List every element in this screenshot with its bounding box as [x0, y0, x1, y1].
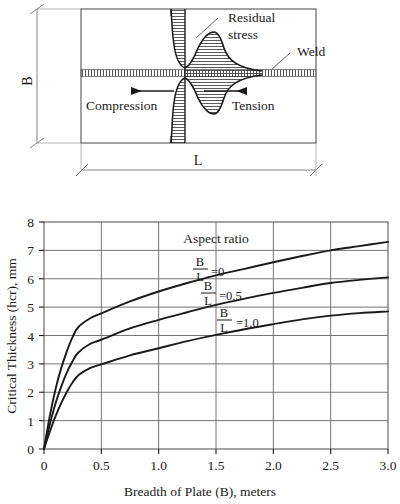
y-tick-label: 1 — [27, 414, 34, 429]
series-2-denominator: L — [220, 321, 228, 335]
series-0-numerator: B — [196, 255, 204, 269]
series-1-value: =0.5 — [219, 289, 242, 303]
label-dim-b: B — [20, 76, 35, 85]
series-1-denominator: L — [204, 294, 212, 308]
y-tick-label: 8 — [27, 215, 34, 230]
y-tick-label: 3 — [27, 357, 34, 372]
x-tick-label: 1.0 — [150, 458, 167, 473]
x-tick-label: 0 — [41, 458, 48, 473]
x-axis-title: Breadth of Plate (B), meters — [124, 484, 276, 499]
y-tick-label: 0 — [27, 442, 34, 457]
label-compression: Compression — [86, 98, 158, 113]
x-tick-label: 2.0 — [265, 458, 282, 473]
y-tick-label: 5 — [27, 300, 34, 315]
legend-title: Aspect ratio — [183, 231, 249, 246]
label-residual-stress: Residual — [228, 10, 275, 25]
label-residual-stress-line2: stress — [228, 27, 258, 42]
y-tick-label: 6 — [27, 272, 34, 287]
label-weld: Weld — [297, 44, 325, 59]
x-tick-label: 2.5 — [322, 458, 339, 473]
series-0-value: =0 — [211, 265, 224, 279]
series-1-numerator: B — [204, 279, 212, 293]
y-tick-label: 4 — [27, 329, 34, 344]
x-tick-label: 1.5 — [208, 458, 225, 473]
y-tick-label: 7 — [27, 243, 34, 258]
figure-container: Residual stress Weld Compression Tension… — [0, 0, 400, 504]
label-tension: Tension — [232, 98, 275, 113]
y-tick-label: 2 — [27, 385, 34, 400]
y-axis-title: Critical Thickness (hcr), mm — [4, 258, 19, 414]
x-tick-label: 0.5 — [93, 458, 110, 473]
label-dim-l: L — [194, 153, 203, 168]
series-0-denominator: L — [196, 270, 204, 284]
series-2-value: =1.0 — [236, 316, 259, 330]
series-2-numerator: B — [220, 306, 228, 320]
x-tick-label: 3.0 — [380, 458, 397, 473]
figure-svg: Residual stress Weld Compression Tension… — [0, 0, 400, 504]
